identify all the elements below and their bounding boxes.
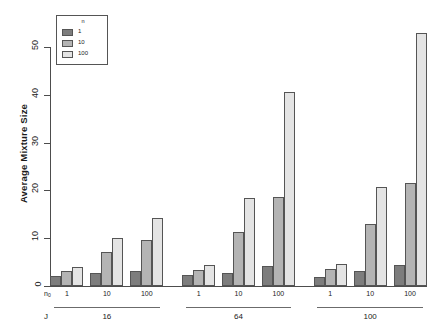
- x-tick-label: 1: [310, 290, 350, 297]
- y-tick: [44, 286, 50, 287]
- bar: [336, 264, 347, 286]
- legend-swatch: [62, 51, 73, 58]
- bar: [61, 271, 72, 286]
- y-tick-label: 0: [0, 279, 40, 289]
- legend-label: 10: [78, 39, 85, 45]
- bar: [50, 276, 61, 286]
- bar: [193, 270, 204, 286]
- legend-swatch: [62, 29, 73, 36]
- bar: [244, 198, 255, 286]
- bar: [101, 252, 112, 286]
- bar: [152, 218, 163, 286]
- group-rule: [54, 307, 160, 308]
- bar: [233, 232, 244, 286]
- x-tick-label: 10: [87, 290, 127, 297]
- x-tick-label: 100: [258, 290, 298, 297]
- x-tick-label: 10: [219, 290, 259, 297]
- y-tick-label: 30: [0, 136, 40, 146]
- group-rule: [317, 307, 423, 308]
- bar: [222, 273, 233, 286]
- bar: [394, 265, 405, 287]
- bar: [130, 271, 141, 286]
- bar: [141, 240, 152, 286]
- legend: n 110100: [56, 15, 108, 65]
- bar: [284, 92, 295, 286]
- bar: [325, 269, 336, 286]
- bar: [416, 33, 427, 286]
- group-label: 64: [209, 312, 269, 321]
- legend-swatch: [62, 40, 73, 47]
- y-tick-label: 50: [0, 40, 40, 50]
- bar: [365, 224, 376, 286]
- x-tick-label: 10: [350, 290, 390, 297]
- y-tick-label: 20: [0, 183, 40, 193]
- bar: [182, 275, 193, 286]
- bar: [72, 267, 83, 286]
- group-axis-name: J: [44, 312, 48, 321]
- legend-label: 1: [78, 28, 81, 34]
- group-label: 16: [77, 312, 137, 321]
- legend-label: 100: [78, 50, 88, 56]
- group-label: 100: [340, 312, 400, 321]
- bar: [204, 265, 215, 286]
- y-tick-label: 40: [0, 88, 40, 98]
- bar: [405, 183, 416, 286]
- group-rule: [186, 307, 292, 308]
- bar: [376, 187, 387, 286]
- bar: [354, 271, 365, 286]
- bar: [262, 266, 273, 286]
- bar: [314, 277, 325, 286]
- y-tick-label: 10: [0, 231, 40, 241]
- bar: [112, 238, 123, 286]
- x-tick-label: 100: [390, 290, 430, 297]
- bar: [273, 197, 284, 286]
- x-tick-label: 1: [179, 290, 219, 297]
- x-axis-line: [50, 286, 427, 287]
- chart-figure: Average Mixture Size 01020304050 n 11010…: [0, 0, 433, 336]
- x-tick-label: 100: [127, 290, 167, 297]
- legend-title: n: [57, 18, 109, 24]
- bar: [90, 273, 101, 286]
- x-tick-label: 1: [47, 290, 87, 297]
